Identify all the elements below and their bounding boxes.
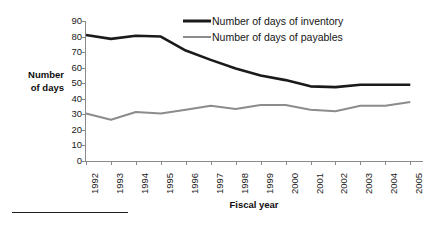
- x-tick-label: 1996: [190, 173, 200, 194]
- x-tick-label: 2004: [389, 173, 399, 194]
- y-tick-label: 60: [62, 63, 82, 73]
- legend-item-inventory: Number of days of inventory: [182, 13, 430, 29]
- y-axis-title-line2: of days: [2, 81, 64, 94]
- x-tick-label: 1997: [215, 173, 225, 194]
- x-tick-label: 2000: [290, 173, 300, 194]
- x-tick-label: 1993: [115, 173, 125, 194]
- y-tick-label: 80: [62, 32, 82, 42]
- y-tick-label: 10: [62, 140, 82, 150]
- y-tick-label: 40: [62, 94, 82, 104]
- y-tick-label: 70: [62, 47, 82, 57]
- footnote-separator: [12, 212, 128, 213]
- x-tick-label: 1999: [265, 173, 275, 194]
- x-tick-label: 1995: [165, 173, 175, 194]
- y-tick-label: 30: [62, 109, 82, 119]
- x-tick-label: 2003: [364, 173, 374, 194]
- y-tick-label: 20: [62, 125, 82, 135]
- x-tick-label: 1994: [140, 173, 150, 194]
- y-tick-label: 90: [62, 16, 82, 26]
- x-tick-label: 2002: [339, 173, 349, 194]
- legend-item-payables: Number of days of payables: [182, 29, 430, 45]
- y-axis-tick-labels: 9080706050403020100: [60, 21, 82, 161]
- y-tick-label: 0: [62, 156, 82, 166]
- x-axis-tick-labels: 1992199319941995199619971998199920002001…: [85, 164, 423, 198]
- series-line-payables: [86, 102, 410, 120]
- x-axis-title: Fiscal year: [85, 199, 423, 210]
- legend-label-payables: Number of days of payables: [212, 31, 343, 44]
- x-tick-label: 2001: [315, 173, 325, 194]
- legend-label-inventory: Number of days of inventory: [212, 15, 343, 28]
- y-tick-label: 50: [62, 78, 82, 88]
- legend-line-icon-inventory: [182, 13, 212, 29]
- x-tick-label: 1992: [90, 173, 100, 194]
- x-tick-label: 2005: [414, 173, 424, 194]
- y-axis-title: Number of days: [2, 68, 64, 94]
- y-axis-title-line1: Number: [2, 68, 64, 81]
- y-tick-mark: [82, 161, 85, 162]
- legend-line-icon-payables: [182, 29, 212, 45]
- x-tick-label: 1998: [240, 173, 250, 194]
- chart-legend: Number of days of inventory Number of da…: [182, 13, 430, 45]
- chart-screenshot: Number of days 9080706050403020100 19921…: [0, 0, 432, 226]
